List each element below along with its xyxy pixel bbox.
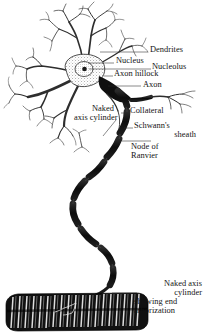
label-end-arborization-line2: cylinder (134, 288, 202, 297)
label-naked-axis-cylinder-line2: axis cylinder (74, 113, 118, 122)
label-collateral: Collateral (130, 106, 164, 115)
label-node-of: Node of (131, 142, 159, 151)
label-nucleus: Nucleus (116, 56, 144, 65)
label-schwanns: Schwann's (134, 121, 170, 130)
label-end-arborization-line3: showing end (134, 297, 177, 306)
label-dendrites: Dendrites (150, 45, 183, 54)
neuron-diagram: Dendrites Nucleus Nucleolus Axon hillock… (0, 0, 205, 334)
label-naked-axis-cylinder-line1: Naked (92, 104, 114, 113)
label-axon-hillock: Axon hillock (114, 69, 159, 78)
label-end-arborization-line4: arborization (134, 306, 175, 315)
motor-end-plate (6, 285, 148, 331)
label-end-arborization-line1: Naked axis (134, 279, 202, 288)
label-sheath: sheath (134, 130, 196, 139)
nucleolus (82, 67, 87, 72)
label-axon: Axon (143, 80, 162, 89)
label-ranvier: Ranvier (131, 151, 158, 160)
